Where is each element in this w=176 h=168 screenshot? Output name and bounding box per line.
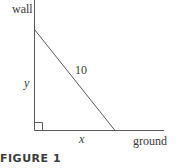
y-label: y [24,77,29,89]
right-angle-marker [35,123,43,131]
x-label: x [79,133,84,145]
ladder-length-label: 10 [75,64,87,76]
ground-label: ground [133,135,167,147]
wall-label: wall [12,3,33,15]
figure-caption: FIGURE 1 [0,152,61,165]
ladder-line [35,30,116,131]
